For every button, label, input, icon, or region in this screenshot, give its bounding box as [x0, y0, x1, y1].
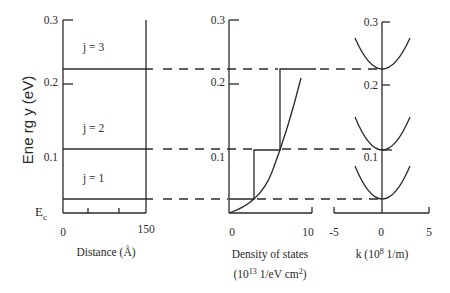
ytick-0.3: 0.3	[364, 16, 379, 28]
y-axis-label: Ene rg y (eV)	[19, 76, 36, 164]
xtick-0: 0	[378, 226, 384, 238]
xtick-5: 5	[426, 226, 432, 238]
xtick-0: 0	[60, 226, 66, 238]
ytick-0.1: 0.1	[44, 151, 59, 163]
ytick-0.2: 0.2	[44, 76, 59, 88]
xtick-0: 0	[229, 226, 235, 238]
xtick-10: 10	[302, 226, 314, 238]
panel-quantum-well: j = 3 j = 2 j = 1 0.3 0.2 0.1 Ec 0 150 D…	[35, 14, 155, 259]
panel-density-of-states: 0.3 0.2 0.1 0 10 Density of states (1013…	[211, 14, 316, 281]
panel-dispersion: 0.3 0.2 0.1 -5 0 5 k (108 1/m)	[329, 16, 432, 261]
x-axis-units-dos: (1013 1/eV cm2)	[233, 267, 306, 281]
dashed-connectors	[163, 69, 378, 199]
step-dos	[229, 69, 316, 199]
ytick-0.3: 0.3	[211, 14, 226, 26]
x-axis-label-dos: Density of states	[232, 248, 309, 261]
ytick-0.3: 0.3	[44, 14, 59, 26]
xtick-150: 150	[137, 223, 155, 235]
quantum-well-diagram: Ene rg y (eV) j = 3 j = 2 j = 1 0.3 0.2 …	[0, 0, 450, 293]
label-j1: j = 1	[82, 172, 104, 185]
bulk-dos-curve	[229, 78, 301, 213]
x-axis-label-distance: Distance (Å)	[76, 245, 135, 259]
xtick--5: -5	[329, 226, 339, 238]
x-axis-label-k: k (108 1/m)	[356, 247, 409, 261]
ytick-0.2: 0.2	[364, 79, 379, 91]
label-j3: j = 3	[82, 41, 104, 54]
label-j2: j = 2	[82, 122, 104, 135]
ytick-0.1: 0.1	[364, 151, 379, 163]
ec-label: Ec	[35, 204, 47, 222]
ytick-0.1: 0.1	[211, 151, 226, 163]
ytick-0.2: 0.2	[211, 76, 226, 88]
